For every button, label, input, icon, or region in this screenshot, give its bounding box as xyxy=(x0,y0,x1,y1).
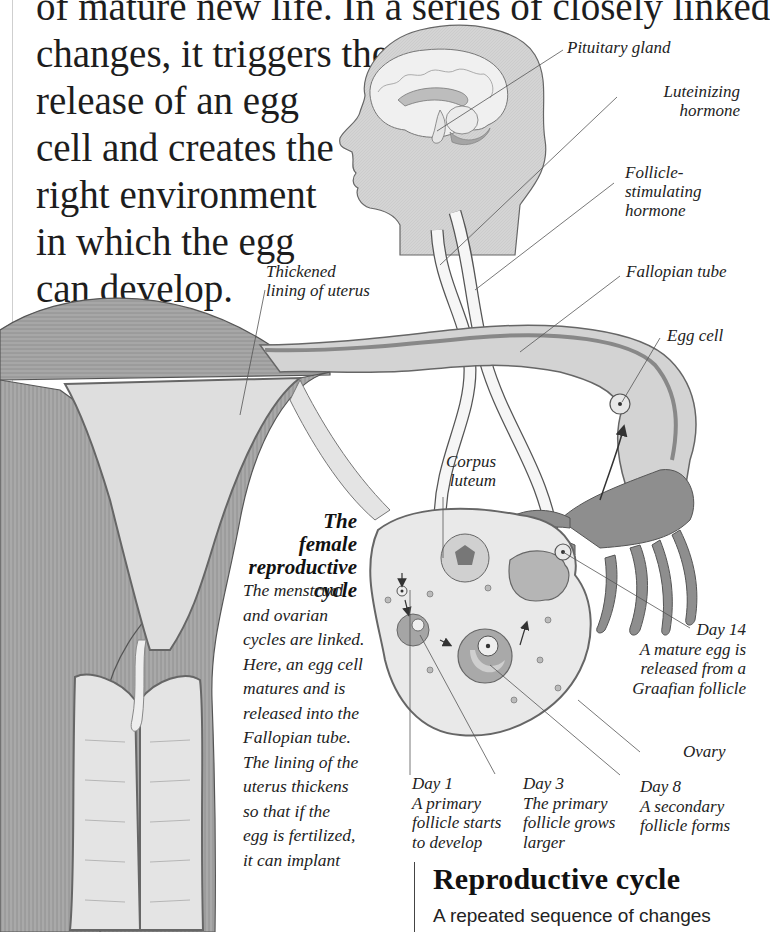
label-pituitary-gland: Pituitary gland xyxy=(567,38,670,57)
label-ovary: Ovary xyxy=(683,742,725,761)
day-14-annotation: Day 14 A mature egg is released from a G… xyxy=(600,620,746,698)
label-follicle-stimulating-hormone: Follicle- stimulating hormone xyxy=(625,163,702,220)
label-luteinizing-hormone: Luteinizing hormone xyxy=(620,82,740,120)
section-divider xyxy=(414,862,415,932)
section-title: Reproductive cycle xyxy=(433,862,680,896)
label-thickened-lining: Thickened lining of uterus xyxy=(266,262,370,300)
day-3-annotation: Day 3 The primary follicle grows larger xyxy=(523,774,615,852)
label-fallopian-tube: Fallopian tube xyxy=(626,262,727,281)
section-body: A repeated sequence of changes xyxy=(433,905,711,927)
day-8-annotation: Day 8 A secondary follicle forms xyxy=(640,777,730,836)
label-corpus-luteum: Corpus luteum xyxy=(430,452,496,490)
day-1-annotation: Day 1 A primary follicle starts to devel… xyxy=(412,774,501,852)
caption-body: The menstrual and ovarian cycles are lin… xyxy=(243,578,378,872)
label-egg-cell: Egg cell xyxy=(667,326,723,345)
head-silhouette xyxy=(340,25,546,255)
